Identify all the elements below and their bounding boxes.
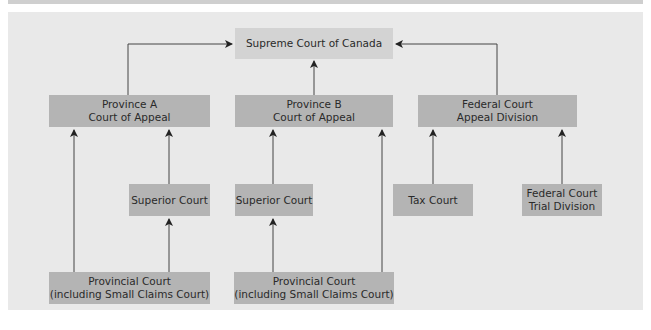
node-superior-court-b: Superior Court: [235, 184, 313, 216]
node-label: Supreme Court of Canada: [246, 37, 382, 50]
node-superior-court-a: Superior Court: [129, 184, 210, 216]
node-province-a-court-of-appeal: Province A Court of Appeal: [49, 95, 210, 127]
node-provincial-court-b: Provincial Court (including Small Claims…: [234, 272, 394, 304]
node-federal-court-appeal-division: Federal Court Appeal Division: [418, 95, 577, 127]
node-federal-court-trial-division: Federal Court Trial Division: [522, 184, 602, 216]
node-label: Provincial Court (including Small Claims…: [50, 275, 209, 301]
node-label: Federal Court Appeal Division: [457, 98, 538, 124]
node-label: Province A Court of Appeal: [89, 98, 171, 124]
node-label: Superior Court: [236, 194, 313, 207]
node-label: Province B Court of Appeal: [273, 98, 355, 124]
node-label: Federal Court Trial Division: [527, 187, 598, 213]
node-tax-court: Tax Court: [393, 184, 473, 216]
node-label: Superior Court: [131, 194, 208, 207]
node-province-b-court-of-appeal: Province B Court of Appeal: [235, 95, 393, 127]
node-provincial-court-a: Provincial Court (including Small Claims…: [49, 272, 210, 304]
node-label: Tax Court: [408, 194, 458, 207]
node-label: Provincial Court (including Small Claims…: [234, 275, 393, 301]
node-supreme-court: Supreme Court of Canada: [235, 28, 393, 59]
